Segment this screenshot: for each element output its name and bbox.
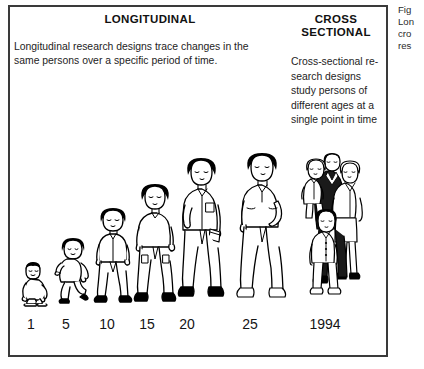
cross-sectional-heading: CROSS SECTIONAL bbox=[288, 13, 384, 39]
cross-sectional-heading-line2: SECTIONAL bbox=[288, 26, 384, 39]
cross-sectional-description-line: single point in time bbox=[291, 113, 383, 128]
figure-caption-line: res bbox=[398, 40, 424, 52]
figure-child-standing bbox=[92, 207, 134, 307]
cross-sectional-heading-line1: CROSS bbox=[288, 13, 384, 26]
cross-sectional-description-line: Cross-sectional re- bbox=[291, 55, 383, 70]
people-illustration-row bbox=[0, 140, 380, 315]
age-label-1: 1 bbox=[21, 316, 41, 332]
age-label-1994: 1994 bbox=[304, 316, 346, 332]
age-label-25: 25 bbox=[238, 316, 262, 332]
figure-family-group bbox=[297, 152, 363, 307]
cross-sectional-description: Cross-sectional re- search designs study… bbox=[291, 55, 383, 128]
figure-infant-crawling bbox=[16, 259, 58, 307]
age-label-5: 5 bbox=[56, 316, 76, 332]
age-label-15: 15 bbox=[135, 316, 159, 332]
age-label-10: 10 bbox=[95, 316, 119, 332]
longitudinal-description: Longitudinal research designs trace chan… bbox=[14, 40, 276, 67]
figure-caption: Fig Lon cro res bbox=[398, 4, 424, 52]
cross-sectional-description-line: different ages at a bbox=[291, 99, 383, 114]
figure-adult-hand-on-hip bbox=[235, 152, 287, 307]
figure-caption-line: Lon bbox=[398, 16, 424, 28]
figure-toddler-walking bbox=[54, 237, 94, 307]
longitudinal-heading: LONGITUDINAL bbox=[60, 13, 240, 26]
cross-sectional-description-line: study persons of bbox=[291, 84, 383, 99]
cross-sectional-description-line: search designs bbox=[291, 70, 383, 85]
figure-caption-line: cro bbox=[398, 28, 424, 40]
age-label-20: 20 bbox=[175, 316, 199, 332]
figure-young-adult-with-book bbox=[177, 157, 225, 307]
figure-teen-standing bbox=[133, 183, 177, 307]
figure-caption-line: Fig bbox=[398, 4, 424, 16]
